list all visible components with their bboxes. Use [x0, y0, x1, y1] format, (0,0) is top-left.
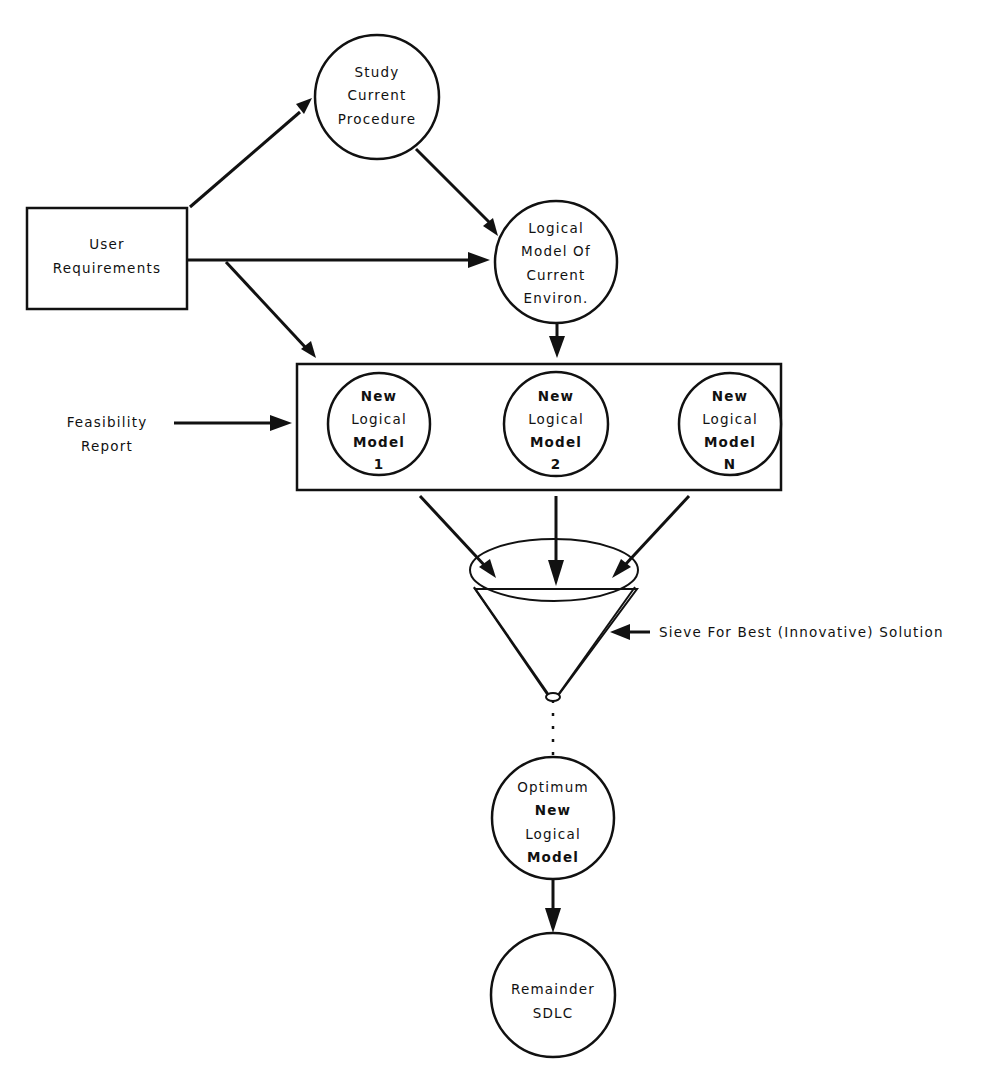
- arrowhead-icon: [548, 560, 564, 586]
- group-new-logical-models: New Logical Model 1 New Logical Model 2 …: [297, 364, 781, 490]
- edge-study-to-logical: [416, 149, 498, 236]
- svg-text:2: 2: [551, 456, 562, 472]
- edge-logical-to-models: [549, 322, 565, 358]
- arrowhead-icon: [270, 415, 292, 431]
- svg-text:Procedure: Procedure: [338, 111, 417, 127]
- node-study-current-procedure: Study Current Procedure: [315, 35, 439, 159]
- edge-userreq-to-logical: [188, 252, 490, 268]
- arrowhead-icon: [545, 908, 561, 933]
- svg-text:Report: Report: [81, 438, 133, 454]
- svg-text:Logical: Logical: [351, 411, 407, 427]
- svg-text:Logical: Logical: [525, 826, 581, 842]
- svg-text:Model Of: Model Of: [521, 243, 591, 259]
- svg-text:Remainder: Remainder: [511, 981, 595, 997]
- edge-model2-to-sieve: [548, 496, 564, 586]
- edge-sieve-label-pointer: [610, 624, 650, 640]
- flowchart-canvas: User Requirements Study Current Procedur…: [0, 0, 998, 1077]
- edge-userreq-to-models: [226, 262, 316, 358]
- node-logical-model-current-environ: Logical Model Of Current Environ.: [495, 201, 617, 323]
- svg-text:N: N: [724, 456, 737, 472]
- arrowhead-icon: [468, 252, 490, 268]
- svg-text:Logical: Logical: [528, 411, 584, 427]
- svg-text:Study: Study: [355, 64, 400, 80]
- svg-text:New: New: [535, 802, 572, 818]
- svg-text:1: 1: [374, 456, 385, 472]
- svg-text:Current: Current: [347, 87, 406, 103]
- svg-text:Model: Model: [530, 434, 582, 450]
- svg-text:SDLC: SDLC: [533, 1005, 574, 1021]
- svg-text:Model: Model: [527, 849, 579, 865]
- svg-text:New: New: [538, 388, 575, 404]
- svg-text:Environ.: Environ.: [524, 290, 589, 306]
- svg-text:Optimum: Optimum: [517, 779, 589, 795]
- svg-text:Requirements: Requirements: [53, 260, 161, 276]
- svg-text:New: New: [361, 388, 398, 404]
- svg-text:Feasibility: Feasibility: [67, 414, 148, 430]
- label-feasibility-report: Feasibility Report: [67, 414, 148, 454]
- svg-text:Logical: Logical: [528, 220, 584, 236]
- arrowhead-icon: [483, 218, 498, 236]
- svg-text:Current: Current: [526, 267, 585, 283]
- edge-modeln-to-sieve: [612, 496, 689, 578]
- edge-model1-to-sieve: [420, 496, 496, 578]
- edge-optimum-to-remainder: [545, 878, 561, 933]
- svg-text:New: New: [712, 388, 749, 404]
- svg-text:Logical: Logical: [702, 411, 758, 427]
- node-new-logical-model-1: New Logical Model 1: [328, 373, 430, 475]
- node-optimum-new-logical-model: Optimum New Logical Model: [492, 757, 614, 879]
- svg-text:Model: Model: [353, 434, 405, 450]
- node-user-requirements: User Requirements: [27, 208, 187, 309]
- edge-feasibility-to-models: [174, 415, 292, 431]
- svg-text:Model: Model: [704, 434, 756, 450]
- node-new-logical-model-n: New Logical Model N: [679, 373, 781, 475]
- svg-text:User: User: [89, 236, 125, 252]
- node-new-logical-model-2: New Logical Model 2: [504, 372, 608, 476]
- svg-text:Sieve For Best (Innovative) So: Sieve For Best (Innovative) Solution: [659, 624, 944, 640]
- arrowhead-icon: [610, 624, 630, 640]
- label-sieve: Sieve For Best (Innovative) Solution: [659, 624, 944, 640]
- node-remainder-sdlc: Remainder SDLC: [491, 933, 615, 1057]
- arrowhead-icon: [549, 336, 565, 358]
- edge-userreq-to-study: [190, 98, 312, 207]
